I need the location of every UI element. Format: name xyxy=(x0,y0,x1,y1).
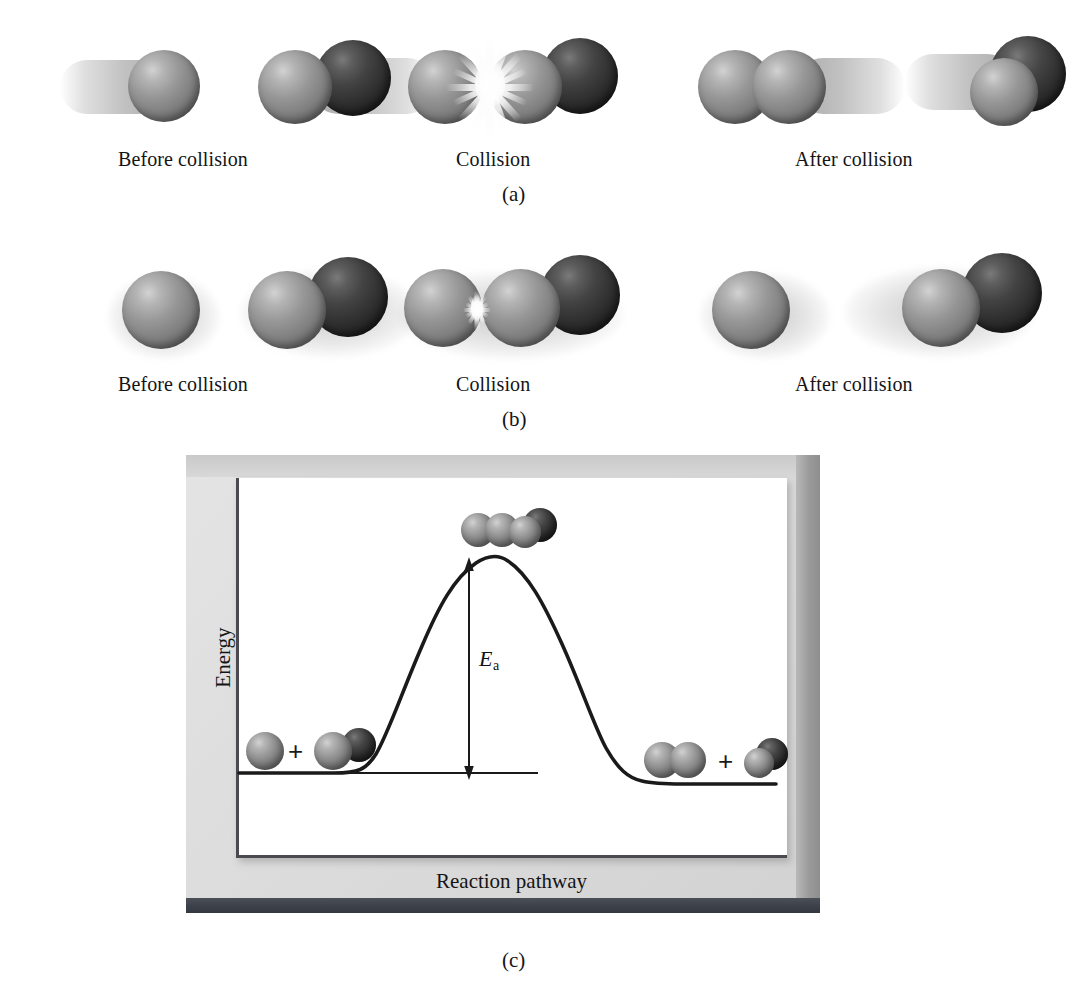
atom-sphere-gray xyxy=(314,732,352,770)
reactants-plus-sign: + xyxy=(288,738,303,764)
atom-sphere-gray xyxy=(970,58,1038,126)
collision-burst-icon xyxy=(448,23,532,145)
atom-sphere-gray xyxy=(246,732,284,770)
panel-b-before-collision-scene xyxy=(60,245,380,360)
panel-b-group: Before collision Collision After collisi… xyxy=(0,225,1073,425)
atom-sphere-gray xyxy=(248,271,326,349)
y-axis-title: Energy xyxy=(211,613,236,703)
x-axis-title: Reaction pathway xyxy=(236,869,787,894)
energy-panel-top-edge xyxy=(186,455,820,477)
panel-b-before-collision-label: Before collision xyxy=(118,373,248,396)
panel-a-before-collision-label: Before collision xyxy=(118,148,248,171)
atom-sphere-gray xyxy=(258,50,332,124)
atom-sphere-gray xyxy=(712,271,790,349)
panel-a-collision-label: Collision xyxy=(456,148,530,171)
atom-sphere-gray xyxy=(128,50,200,122)
atom-sphere-gray xyxy=(902,269,980,347)
energy-panel-right-edge xyxy=(796,455,820,898)
transition-state-molecule-group xyxy=(461,508,576,558)
panel-a-after-collision-label: After collision xyxy=(795,148,913,171)
panel-a-after-collision-scene xyxy=(690,28,1070,138)
panel-a-label: (a) xyxy=(502,182,525,207)
panel-a-collision-scene xyxy=(400,28,630,138)
panel-c-energy-diagram: Ea (function(){ var el = document.queryS… xyxy=(186,455,820,913)
panel-b-collision-scene xyxy=(398,245,633,360)
plot-area: Ea (function(){ var el = document.queryS… xyxy=(236,478,787,858)
panel-c-label: (c) xyxy=(502,948,525,973)
reactants-molecule-group: + xyxy=(246,726,371,774)
atom-sphere-gray xyxy=(752,50,826,124)
panel-b-after-collision-scene xyxy=(690,245,1070,360)
atom-sphere-gray xyxy=(744,748,774,778)
collision-burst-icon xyxy=(460,275,494,341)
activation-energy-label: Ea xyxy=(479,646,499,672)
products-molecule-group: + xyxy=(644,736,784,784)
atom-sphere-gray xyxy=(122,271,200,349)
atom-sphere-gray xyxy=(670,742,706,778)
activation-energy-arrow xyxy=(464,557,474,780)
products-plus-sign: + xyxy=(718,748,733,774)
atom-sphere-gray xyxy=(509,516,541,548)
panel-a-group: Before collision Collision After collisi… xyxy=(0,0,1073,215)
collision-theory-figure: Before collision Collision After collisi… xyxy=(0,0,1073,1000)
energy-panel-bottom-bar xyxy=(186,898,820,913)
panel-a-before-collision-scene xyxy=(60,28,380,138)
panel-b-after-collision-label: After collision xyxy=(795,373,913,396)
panel-b-label: (b) xyxy=(502,407,527,432)
panel-b-collision-label: Collision xyxy=(456,373,530,396)
